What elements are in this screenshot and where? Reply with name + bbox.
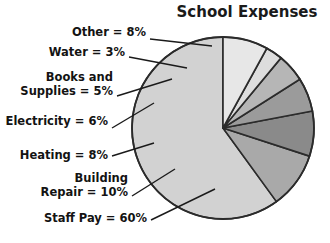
label-building-repair-line1: Building: [0, 172, 128, 186]
label-building-repair: Building Repair = 10%: [0, 172, 128, 199]
label-water-text: Water = 3%: [49, 45, 125, 59]
label-heating: Heating = 8%: [0, 149, 108, 163]
label-heating-text: Heating = 8%: [20, 148, 108, 162]
label-books-and-supplies: Books and Supplies = 5%: [0, 71, 113, 98]
label-other: Other = 8%: [0, 26, 146, 40]
pie-chart-figure: School Expenses Other = 8% Water = 3%: [0, 0, 330, 243]
label-books-and-supplies-line1: Books and: [0, 71, 113, 85]
label-building-repair-line2: Repair = 10%: [0, 186, 128, 200]
label-water: Water = 3%: [0, 46, 125, 60]
label-electricity: Electricity = 6%: [0, 115, 108, 129]
label-books-and-supplies-line2: Supplies = 5%: [0, 85, 113, 99]
label-staff-pay: Staff Pay = 60%: [0, 212, 147, 226]
label-other-text: Other = 8%: [72, 25, 146, 39]
label-staff-pay-text: Staff Pay = 60%: [44, 211, 147, 225]
label-electricity-text: Electricity = 6%: [6, 114, 108, 128]
